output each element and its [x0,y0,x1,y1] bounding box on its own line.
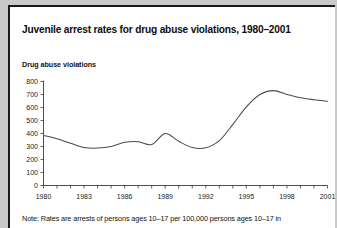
svg-text:200: 200 [26,156,38,163]
svg-text:1998: 1998 [279,193,295,200]
svg-text:400: 400 [26,130,38,137]
svg-text:300: 300 [26,143,38,150]
svg-text:800: 800 [26,78,38,85]
figure-card: Juvenile arrest rates for drug abuse vio… [8,5,335,228]
chart-plot-area: 0100200300400500600700800 19801983198619… [10,7,335,228]
svg-text:1992: 1992 [198,193,214,200]
y-axis-tick-labels: 0100200300400500600700800 [26,78,38,189]
svg-text:0: 0 [34,182,38,189]
svg-text:600: 600 [26,104,38,111]
svg-text:2001: 2001 [320,193,335,200]
data-series-line [44,91,328,149]
svg-text:1980: 1980 [36,193,52,200]
svg-text:1989: 1989 [157,193,173,200]
svg-text:500: 500 [26,117,38,124]
svg-text:1986: 1986 [117,193,133,200]
figure-note: Note: Rates are arrests of persons ages … [22,214,335,223]
x-axis-tick-labels: 19801983198619891992199519982001 [36,193,335,200]
svg-text:100: 100 [26,169,38,176]
svg-text:700: 700 [26,91,38,98]
svg-text:1995: 1995 [239,193,255,200]
svg-text:1983: 1983 [76,193,92,200]
line-chart: 0100200300400500600700800 19801983198619… [10,7,335,228]
